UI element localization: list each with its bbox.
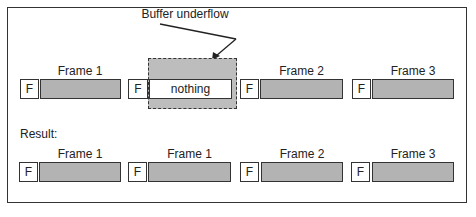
frame-header: F <box>128 162 147 182</box>
frame-body <box>148 162 231 182</box>
frame-header: F <box>240 162 259 182</box>
frame-label: Frame 1 <box>148 147 231 161</box>
frame-label: Frame 3 <box>372 147 454 161</box>
frame-body <box>372 79 454 99</box>
frame-label: Frame 2 <box>260 64 343 78</box>
frame-header: F <box>240 79 259 99</box>
frame-body <box>260 79 343 99</box>
frame-header: F <box>20 79 39 99</box>
frame-label: Frame 1 <box>39 147 121 161</box>
frame-label: Frame 1 <box>40 64 120 78</box>
result-label: Result: <box>20 127 57 141</box>
frame-header: F <box>352 79 371 99</box>
frame-header: F <box>351 162 370 182</box>
frame-body <box>372 162 454 182</box>
frame-body <box>261 162 343 182</box>
empty-frame-body: nothing <box>149 79 232 99</box>
frame-body <box>40 79 121 99</box>
frame-body <box>39 162 121 182</box>
frame-header: F <box>19 162 38 182</box>
frame-label: Frame 2 <box>261 147 343 161</box>
frame-label: Frame 3 <box>372 64 454 78</box>
arrow-icon <box>0 0 476 217</box>
frame-header: F <box>128 79 148 99</box>
